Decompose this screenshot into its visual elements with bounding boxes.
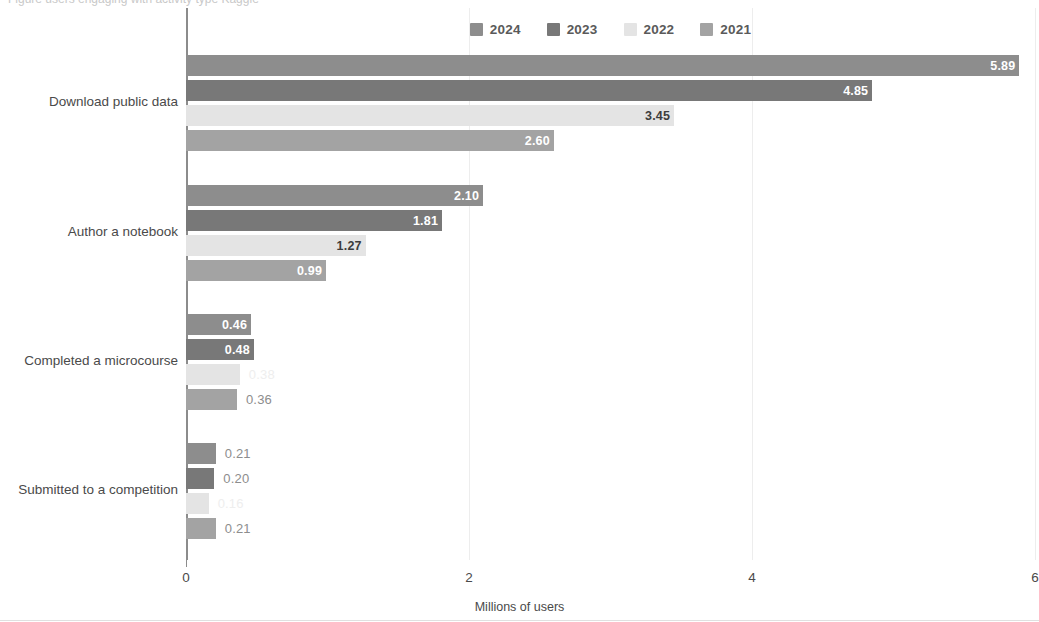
- bar-row[interactable]: 1.81: [186, 210, 438, 231]
- bar-row[interactable]: 2.10: [186, 185, 479, 206]
- legend-swatch-icon-2021: [700, 23, 713, 36]
- bar-row[interactable]: 2.60: [186, 130, 550, 151]
- bar-value-label: 5.89: [975, 59, 1015, 73]
- bar-value-label: 2.10: [439, 189, 479, 203]
- bar-2022-0[interactable]: [186, 105, 674, 126]
- bar-value-label: 3.45: [630, 109, 670, 123]
- bar-row[interactable]: 0.21: [186, 443, 251, 464]
- clipped-caption-strip: Figure users engaging with activity type…: [0, 0, 1039, 7]
- clipped-caption-text: Figure users engaging with activity type…: [8, 0, 259, 6]
- x-tick-label-6: 6: [1031, 570, 1039, 585]
- bar-2021-2[interactable]: [186, 389, 237, 410]
- chart-legend: 2024202320222021: [186, 22, 1035, 37]
- bar-value-label: 1.27: [322, 239, 362, 253]
- bar-row[interactable]: 1.27: [186, 235, 362, 256]
- legend-swatch-icon-2022: [624, 23, 637, 36]
- bar-row[interactable]: 4.85: [186, 80, 868, 101]
- category-label-0: Download public data: [0, 94, 188, 109]
- bar-row[interactable]: 0.36: [186, 389, 272, 410]
- bar-2024-0[interactable]: [186, 55, 1019, 76]
- bar-chart: Figure users engaging with activity type…: [0, 0, 1039, 622]
- bottom-divider: [0, 620, 1039, 621]
- legend-label: 2021: [720, 22, 751, 37]
- bar-row[interactable]: 0.16: [186, 493, 244, 514]
- gridline-6: [1035, 8, 1036, 560]
- bar-value-label: 0.16: [218, 496, 244, 511]
- x-tick-label-2: 2: [465, 570, 473, 585]
- bar-2023-3[interactable]: [186, 468, 214, 489]
- legend-item-2023[interactable]: 2023: [547, 22, 598, 37]
- bar-2021-3[interactable]: [186, 518, 216, 539]
- x-axis-title: Millions of users: [0, 600, 1039, 614]
- bar-value-label: 2.60: [510, 134, 550, 148]
- bar-value-label: 0.20: [223, 471, 249, 486]
- bar-value-label: 4.85: [828, 84, 868, 98]
- bar-row[interactable]: 0.38: [186, 364, 275, 385]
- bar-row[interactable]: 0.21: [186, 518, 251, 539]
- bar-value-label: 0.38: [249, 367, 275, 382]
- legend-label: 2022: [644, 22, 675, 37]
- bar-row[interactable]: 0.48: [186, 339, 250, 360]
- bar-row[interactable]: 0.20: [186, 468, 249, 489]
- bar-value-label: 0.99: [282, 264, 322, 278]
- bar-row[interactable]: 3.45: [186, 105, 670, 126]
- legend-item-2022[interactable]: 2022: [624, 22, 675, 37]
- bar-2022-2[interactable]: [186, 364, 240, 385]
- x-tick-mark-0: [186, 560, 187, 567]
- bar-2022-3[interactable]: [186, 493, 209, 514]
- bar-value-label: 0.48: [210, 343, 250, 357]
- category-label-3: Submitted to a competition: [0, 482, 188, 497]
- legend-item-2024[interactable]: 2024: [470, 22, 521, 37]
- bar-2024-3[interactable]: [186, 443, 216, 464]
- legend-label: 2024: [490, 22, 521, 37]
- category-label-2: Completed a microcourse: [0, 353, 188, 368]
- bar-value-label: 0.46: [207, 318, 247, 332]
- legend-swatch-icon-2024: [470, 23, 483, 36]
- bar-value-label: 0.36: [246, 392, 272, 407]
- bar-row[interactable]: 0.99: [186, 260, 322, 281]
- bar-value-label: 0.21: [225, 446, 251, 461]
- bar-value-label: 1.81: [398, 214, 438, 228]
- x-tick-label-4: 4: [748, 570, 756, 585]
- bar-row[interactable]: 0.46: [186, 314, 247, 335]
- category-label-1: Author a notebook: [0, 224, 188, 239]
- legend-item-2021[interactable]: 2021: [700, 22, 751, 37]
- x-tick-label-0: 0: [182, 570, 190, 585]
- bar-value-label: 0.21: [225, 521, 251, 536]
- legend-label: 2023: [567, 22, 598, 37]
- bar-row[interactable]: 5.89: [186, 55, 1015, 76]
- bar-2023-0[interactable]: [186, 80, 872, 101]
- bar-2021-0[interactable]: [186, 130, 554, 151]
- legend-swatch-icon-2023: [547, 23, 560, 36]
